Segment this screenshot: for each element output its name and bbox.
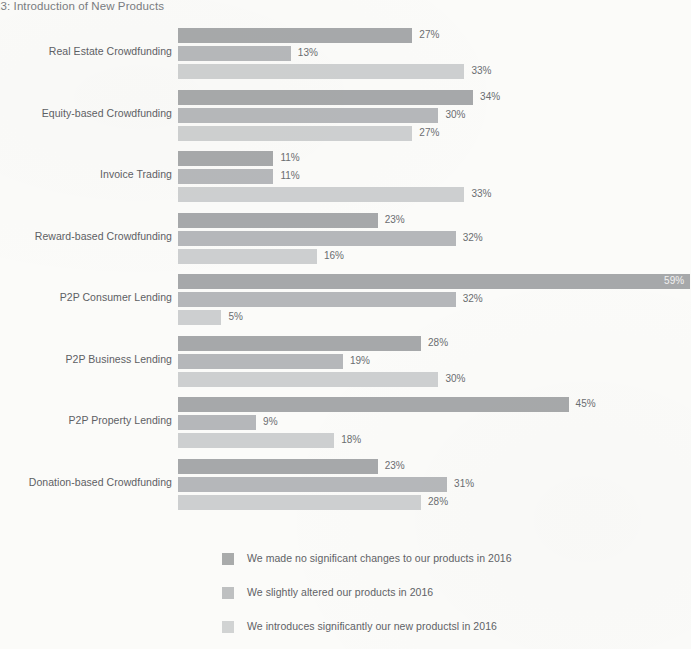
legend-swatch-icon (222, 621, 234, 633)
bar-value-label: 19% (350, 355, 370, 366)
bar (178, 372, 438, 387)
bar (178, 336, 421, 351)
bar (178, 151, 273, 166)
bar (178, 126, 412, 141)
category-label: Real Estate Crowdfunding (0, 45, 172, 57)
legend-label: We introduces significantly our new prod… (247, 620, 497, 632)
bar-value-label: 28% (428, 337, 448, 348)
bar-value-label: 13% (298, 47, 318, 58)
bar-chart-plot-area: Real Estate Crowdfunding27%13%33%Equity-… (0, 28, 691, 528)
bar-value-label: 31% (454, 478, 474, 489)
bar (178, 477, 447, 492)
bar (178, 310, 221, 325)
bar (178, 459, 378, 474)
bar-group: Donation-based Crowdfunding23%31%28% (0, 459, 691, 514)
bar (178, 415, 256, 430)
bar-group: Invoice Trading11%11%33% (0, 151, 691, 206)
bar (178, 231, 456, 246)
category-label: P2P Business Lending (0, 353, 172, 365)
bar (178, 64, 464, 79)
bar-value-label: 18% (341, 434, 361, 445)
bar-group: P2P Property Lending45%9%18% (0, 397, 691, 452)
bar-group: P2P Business Lending28%19%30% (0, 336, 691, 391)
bar-value-label: 32% (463, 232, 483, 243)
bar-value-label: 33% (471, 65, 491, 76)
bar (178, 90, 473, 105)
category-label: Invoice Trading (0, 168, 172, 180)
page-title: 23: Introduction of New Products (0, 0, 164, 12)
bar-group: Equity-based Crowdfunding34%30%27% (0, 90, 691, 145)
bar (178, 213, 378, 228)
category-label: Equity-based Crowdfunding (0, 107, 172, 119)
bar (178, 292, 456, 307)
bar (178, 46, 291, 61)
bar-value-label: 28% (428, 496, 448, 507)
bar-value-label: 45% (576, 398, 596, 409)
bar-value-label: 11% (280, 152, 299, 163)
bar-group: P2P Consumer Lending59%32%5% (0, 274, 691, 329)
bar (178, 274, 690, 289)
bar-value-label: 33% (471, 188, 491, 199)
bar-value-label: 30% (445, 373, 465, 384)
bar-value-label: 27% (419, 127, 439, 138)
category-label: P2P Consumer Lending (0, 291, 172, 303)
bar-value-label: 59% (664, 275, 684, 286)
bar-value-label: 30% (445, 109, 465, 120)
bar (178, 433, 334, 448)
category-label: P2P Property Lending (0, 414, 172, 426)
bar-group: Reward-based Crowdfunding23%32%16% (0, 213, 691, 268)
bar (178, 249, 317, 264)
legend-label: We slightly altered our products in 2016 (247, 586, 433, 598)
bar-value-label: 23% (385, 214, 405, 225)
chart-page: 23: Introduction of New Products Real Es… (0, 0, 691, 649)
legend-swatch-icon (222, 553, 234, 565)
category-label: Reward-based Crowdfunding (0, 230, 172, 242)
bar-group: Real Estate Crowdfunding27%13%33% (0, 28, 691, 83)
bar-value-label: 9% (263, 416, 277, 427)
bar (178, 28, 412, 43)
legend-swatch-icon (222, 587, 234, 599)
bar (178, 397, 569, 412)
bar (178, 354, 343, 369)
bar-value-label: 16% (324, 250, 344, 261)
bar-value-label: 32% (463, 293, 483, 304)
bar (178, 495, 421, 510)
bar-value-label: 23% (385, 460, 405, 471)
bar-value-label: 5% (228, 311, 242, 322)
bar (178, 187, 464, 202)
bar (178, 169, 273, 184)
bar (178, 108, 438, 123)
bar-value-label: 34% (480, 91, 500, 102)
category-label: Donation-based Crowdfunding (0, 476, 172, 488)
legend-label: We made no significant changes to our pr… (247, 552, 512, 564)
bar-value-label: 27% (419, 29, 439, 40)
bar-value-label: 11% (280, 170, 299, 181)
